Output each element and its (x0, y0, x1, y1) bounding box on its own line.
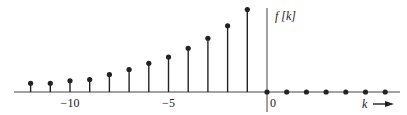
stem-marker (107, 72, 112, 77)
stem-marker (166, 54, 171, 59)
stem-marker (363, 89, 368, 94)
stem-marker (28, 81, 33, 86)
stem-marker (146, 61, 151, 66)
x-axis-label: k (362, 97, 368, 111)
stem-marker (245, 7, 250, 12)
y-axis-label: f [k] (275, 9, 296, 23)
stem-marker (127, 67, 132, 72)
x-tick-label: −5 (162, 96, 175, 110)
x-tick-label: 0 (270, 96, 276, 110)
stem-marker (87, 77, 92, 82)
stem-marker (186, 46, 191, 51)
stem-marker (343, 89, 348, 94)
arrow-right-icon (385, 101, 394, 107)
stem-marker (225, 23, 230, 28)
stem-marker (324, 89, 329, 94)
stem-chart-svg: −10−50f [k]k (0, 0, 407, 115)
x-tick-label: −10 (61, 96, 80, 110)
stem-marker (304, 89, 309, 94)
stem-marker (67, 78, 72, 83)
stem-marker (264, 89, 269, 94)
stem-marker (205, 36, 210, 41)
stem-marker (48, 81, 53, 86)
stem-plot: −10−50f [k]k (0, 0, 407, 115)
stem-marker (383, 89, 388, 94)
stem-marker (284, 89, 289, 94)
